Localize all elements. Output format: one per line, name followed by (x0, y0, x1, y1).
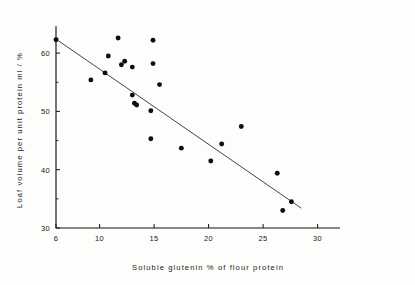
data-point (219, 142, 224, 147)
y-axis-title: Loaf volume per unit protein ml / % (15, 52, 24, 208)
scatter-plot-figure: 6101520253030405060 Soluble glutenin % o… (0, 0, 415, 285)
data-point (54, 37, 59, 42)
data-point (106, 54, 111, 59)
data-point (148, 136, 153, 141)
data-point (208, 159, 213, 164)
y-tick-label: 60 (41, 49, 50, 58)
data-point (280, 208, 285, 213)
x-tick-label: 20 (204, 234, 213, 243)
x-axis-title: Soluble glutenin % of flour protein (132, 263, 284, 272)
fit-line (56, 39, 301, 208)
data-point (239, 124, 244, 129)
regression-line (56, 39, 301, 208)
tick-marks (56, 39, 318, 228)
axes (56, 27, 339, 228)
x-tick-label: 10 (95, 234, 104, 243)
data-point (275, 171, 280, 176)
y-tick-label: 30 (41, 224, 50, 233)
plot-canvas: 6101520253030405060 Soluble glutenin % o… (0, 0, 415, 285)
data-point (130, 93, 135, 98)
data-point (122, 59, 127, 64)
data-point (151, 38, 156, 43)
y-tick-label: 50 (41, 107, 50, 116)
data-point (103, 70, 108, 75)
x-tick-label: 25 (259, 234, 268, 243)
axis-spine (56, 27, 339, 228)
data-point (148, 108, 153, 113)
y-tick-label: 40 (41, 166, 50, 175)
x-tick-label: 6 (54, 234, 58, 243)
x-tick-label: 15 (150, 234, 159, 243)
data-point (151, 61, 156, 66)
data-point (116, 35, 121, 40)
data-point (289, 199, 294, 204)
x-tick-label: 30 (313, 234, 322, 243)
data-point (134, 103, 139, 108)
data-point (130, 65, 135, 70)
data-point (179, 146, 184, 151)
data-point (88, 77, 93, 82)
data-point (157, 82, 162, 87)
